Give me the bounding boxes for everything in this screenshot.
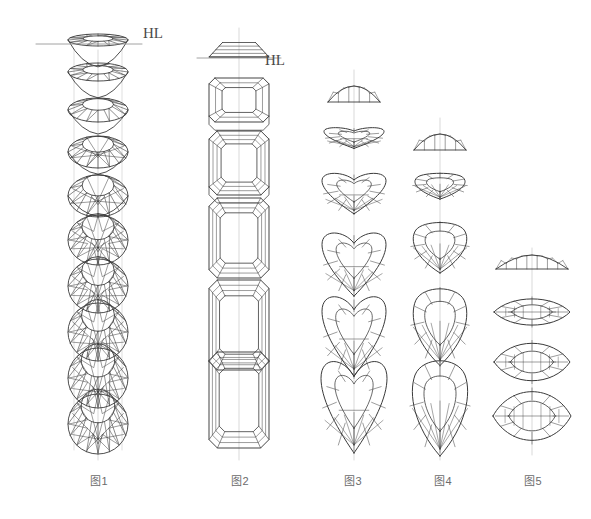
crown-star-facet [450, 136, 455, 141]
crown-facet-line [362, 275, 369, 291]
crown-step-facet [252, 182, 261, 195]
crown-star-facet [104, 74, 110, 81]
pavilion-main-facet [335, 418, 354, 445]
crown-bezel-facet [68, 406, 81, 424]
lower-half-facet [98, 260, 118, 277]
crown-facet-line [415, 234, 427, 238]
crown-facet-line [514, 318, 523, 323]
figure-caption-fig3: 图3 [344, 472, 362, 488]
crown-step-facet [253, 432, 260, 448]
lower-half-facet [78, 216, 98, 231]
crown-star-facet [87, 110, 98, 121]
figure-caption-fig5: 图5 [524, 472, 542, 488]
crown-facet-line [327, 387, 339, 391]
view-tilt-3 [411, 287, 469, 365]
crown-star-facet [364, 88, 369, 93]
pavilion-main-facet [98, 248, 123, 249]
crown-star-facet [70, 354, 82, 366]
crown-facet-line [548, 315, 563, 318]
crown-step-facet [253, 280, 261, 296]
crown-bezel-facet [109, 73, 119, 79]
crown-facet-line [326, 137, 340, 138]
crown-star-facet [87, 196, 98, 215]
crown-facet-line [447, 175, 454, 179]
lower-half-facet [78, 260, 98, 277]
crown-bezel-facet [110, 261, 120, 267]
crown-step-facet [217, 131, 226, 144]
crown-facet-line [415, 332, 426, 344]
crown-facet-line [550, 406, 564, 410]
crown-bezel-facet [68, 39, 83, 40]
crown-star-facet [70, 309, 82, 321]
crown-step-facet [252, 131, 261, 144]
crown-facet-line [339, 350, 346, 369]
crown-star-facet [113, 367, 125, 390]
crown-facet-line [368, 184, 381, 186]
crown-facet-line [324, 191, 338, 194]
crown-star-facet [87, 110, 93, 121]
crown-bezel-facet [110, 327, 120, 353]
figure-caption-fig4: 图4 [434, 472, 452, 488]
crown-facet-line [371, 332, 385, 337]
pavilion-main-facet [98, 201, 109, 214]
crown-facet-line [501, 306, 516, 309]
lower-half-facet [108, 223, 126, 240]
crown-facet-line [543, 428, 551, 437]
crown-step-facet [217, 432, 224, 448]
crown-facet-line [501, 366, 515, 370]
crown-facet-line [541, 301, 550, 306]
crown-bezel-facet [115, 406, 128, 424]
crown-facet-line [454, 332, 465, 344]
crown-facet-line [454, 306, 465, 311]
crown-star-facet [114, 400, 126, 413]
view-tilt-2 [411, 222, 469, 273]
pavilion-main-facet [87, 399, 98, 439]
crown-step-facet [217, 198, 225, 213]
crown-facet-line [453, 251, 465, 259]
crown-facet-line [369, 387, 381, 391]
gem-diagram-canvas [0, 0, 591, 519]
crown-star-facet [114, 412, 126, 435]
crown-bezel-facet [77, 36, 88, 37]
pavilion-main-facet [98, 263, 109, 296]
crown-facet-line [370, 261, 384, 265]
crown-star-facet [104, 152, 109, 167]
crown-facet-line [368, 137, 382, 138]
crown-star-facet [70, 222, 83, 231]
crown-step-facet [259, 426, 269, 439]
figure-fig1-round-brilliant [68, 34, 128, 460]
pavilion-main-facet [98, 155, 123, 158]
crown-star-facet [87, 195, 92, 215]
crown-facet-line [514, 428, 522, 437]
crown-bezel-facet [114, 185, 128, 196]
pavilion-main-facet [98, 201, 123, 203]
crown-facet-line [415, 251, 427, 259]
crown-facet-line [514, 395, 522, 404]
crown-facet-line [414, 383, 426, 390]
crown-bezel-facet [109, 66, 119, 67]
crown-star-facet [87, 41, 93, 45]
crown-facet-line [454, 415, 466, 429]
pavilion-main-facet [422, 246, 440, 269]
crown-star-facet [113, 104, 125, 114]
crown-star-facet [113, 354, 125, 366]
crown-step-facet [253, 198, 261, 213]
crown-step-facet [209, 426, 219, 439]
crown-facet-line [501, 354, 515, 358]
crown-facet-line [339, 275, 346, 291]
crown-facet-line [448, 292, 455, 304]
crown-facet-line [410, 402, 423, 406]
crown-bezel-facet [77, 327, 87, 353]
crown-facet-line [425, 225, 432, 233]
figure-fig2-emerald-cut [209, 28, 269, 460]
crown-facet-line [367, 133, 379, 134]
crown-facet-line [514, 346, 522, 353]
crown-facet-line [454, 383, 466, 390]
crown-facet-line [542, 346, 550, 353]
crown-facet-line [500, 406, 514, 410]
crown-bezel-facet [77, 66, 87, 67]
crown-facet-line [369, 319, 381, 322]
crown-bezel-facet [77, 193, 87, 211]
crown-facet-line [542, 371, 550, 378]
crown-star-facet [113, 321, 125, 343]
